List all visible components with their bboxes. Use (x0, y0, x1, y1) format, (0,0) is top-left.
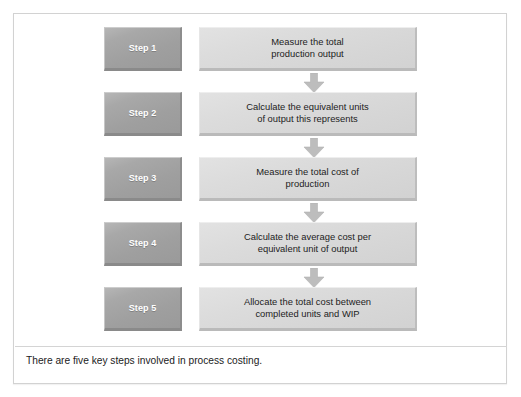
step-label-box-1: Step 1 (104, 27, 182, 71)
flow-step-row: Step 3Measure the total cost of producti… (14, 157, 508, 203)
step-description-box-1: Measure the total production output (199, 27, 417, 71)
caption-divider (15, 346, 507, 347)
step-label-text: Step 4 (129, 238, 157, 248)
step-label-box-4: Step 4 (104, 222, 182, 266)
step-label-box-2: Step 2 (104, 92, 182, 136)
step-label-text: Step 2 (129, 108, 157, 118)
step-description-text: Measure the total production output (271, 36, 343, 61)
flow-step-row: Step 5Allocate the total cost between co… (14, 287, 508, 333)
step-label-text: Step 3 (129, 173, 157, 183)
process-costing-flowchart: Step 1Measure the total production outpu… (14, 14, 508, 344)
step-description-box-2: Calculate the equivalent units of output… (199, 92, 417, 136)
step-description-box-5: Allocate the total cost between complete… (199, 287, 417, 331)
step-description-text: Calculate the equivalent units of output… (246, 101, 368, 126)
flow-step-row: Step 4Calculate the average cost per equ… (14, 222, 508, 268)
step-label-box-3: Step 3 (104, 157, 182, 201)
step-description-text: Calculate the average cost per equivalen… (244, 231, 371, 256)
step-description-box-3: Measure the total cost of production (199, 157, 417, 201)
figure-frame: Step 1Measure the total production outpu… (13, 13, 507, 384)
step-label-text: Step 5 (129, 303, 157, 313)
flow-step-row: Step 2Calculate the equivalent units of … (14, 92, 508, 138)
step-label-text: Step 1 (129, 43, 157, 53)
step-description-text: Allocate the total cost between complete… (244, 296, 371, 321)
step-description-text: Measure the total cost of production (256, 166, 359, 191)
flow-step-row: Step 1Measure the total production outpu… (14, 27, 508, 73)
step-description-box-4: Calculate the average cost per equivalen… (199, 222, 417, 266)
step-label-box-5: Step 5 (104, 287, 182, 331)
figure-caption: There are five key steps involved in pro… (26, 354, 486, 368)
